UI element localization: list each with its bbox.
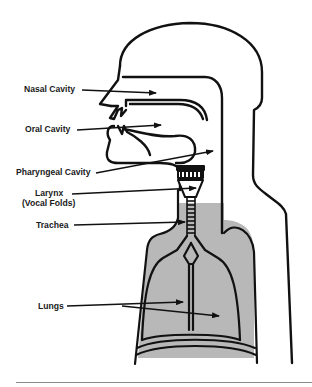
larynx-subtext-label: (Vocal Folds) bbox=[22, 198, 75, 208]
larynx-label: Larynx bbox=[35, 188, 63, 198]
nasal-cavity-arrow bbox=[82, 90, 156, 93]
trachea-label: Trachea bbox=[36, 220, 69, 230]
bottom-divider bbox=[16, 382, 312, 383]
larynx-structure bbox=[177, 166, 204, 197]
lungs-label: Lungs bbox=[38, 301, 64, 311]
pharyngeal-cavity-label: Pharyngeal Cavity bbox=[16, 167, 91, 177]
oral-cavity-label: Oral Cavity bbox=[25, 124, 70, 134]
trachea-arrow bbox=[74, 222, 185, 225]
nasal-cavity-label: Nasal Cavity bbox=[24, 84, 75, 94]
